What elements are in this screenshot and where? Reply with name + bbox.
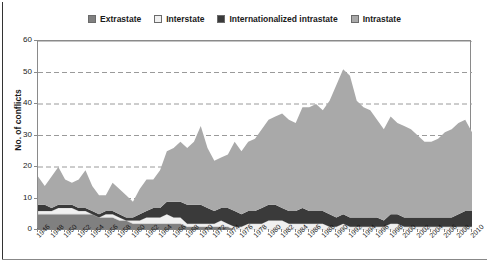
chart-figure: Extrastate Interstate Internationalized … — [0, 0, 489, 264]
legend-label-interstate: Interstate — [166, 14, 204, 24]
legend-label-internationalized-intrastate: Internationalized intrastate — [229, 14, 337, 24]
legend-swatch-intrastate — [351, 15, 359, 23]
area-series-intrastate — [38, 69, 472, 220]
legend-item-extrastate[interactable]: Extrastate — [88, 14, 141, 24]
legend-swatch-extrastate — [88, 15, 96, 23]
figure-border-left — [2, 2, 3, 260]
legend-item-intrastate[interactable]: Intrastate — [351, 14, 401, 24]
legend-item-interstate[interactable]: Interstate — [154, 14, 204, 24]
y-tick-label-60: 60 — [10, 36, 32, 44]
legend-label-extrastate: Extrastate — [100, 14, 141, 24]
figure-border-bottom — [2, 259, 487, 260]
legend-item-internationalized-intrastate[interactable]: Internationalized intrastate — [217, 14, 337, 24]
legend-swatch-internationalized-intrastate — [217, 15, 225, 23]
y-axis-title: No. of conflicts — [13, 60, 23, 180]
plot-area — [37, 40, 471, 229]
legend-label-intrastate: Intrastate — [363, 14, 401, 24]
stacked-area-svg — [38, 41, 472, 230]
legend-swatch-interstate — [154, 15, 162, 23]
y-tick-mark-0 — [34, 229, 37, 230]
y-tick-label-0: 0 — [10, 225, 32, 233]
y-tick-label-10: 10 — [10, 194, 32, 202]
chart-legend: Extrastate Interstate Internationalized … — [0, 11, 489, 27]
